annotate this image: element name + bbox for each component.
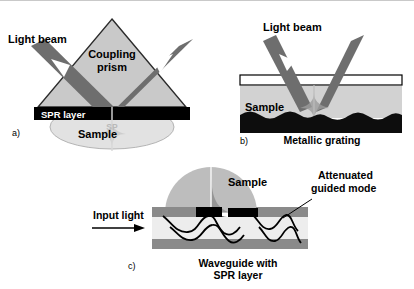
input-light-arrow-head (134, 224, 145, 232)
spr-layer-label-a: SPR layer (41, 109, 86, 120)
cover-glass-b (240, 75, 402, 85)
sample-label-b: Sample (245, 101, 284, 113)
sample-label-c: Sample (228, 176, 267, 188)
input-light-arrow (92, 224, 145, 232)
coupling-prism-label-line2: prism (97, 61, 127, 73)
coupling-prism-label-line1: Coupling (88, 48, 136, 60)
grating-coupling-panel: Light beam Sample Metallic grating b) (240, 21, 402, 146)
waveguide-coupling-panel: Input light Sample Attenuated guided mod… (92, 167, 376, 281)
input-light-label: Input light (93, 209, 144, 221)
panel-tag-b: b) (240, 136, 248, 146)
figure-container: Light beam Coupling prism SPR layer SP S… (0, 0, 414, 289)
panel-tag-a: a) (12, 128, 20, 138)
light-beam-label-b: Light beam (263, 21, 322, 33)
metallic-grating-label: Metallic grating (283, 134, 360, 146)
attenuated-mode-label-line1: Attenuated (318, 169, 373, 181)
waveguide-label-line1: Waveguide with (199, 257, 278, 269)
panel-tag-c: c) (128, 261, 136, 271)
diagram-canvas: Light beam Coupling prism SPR layer SP S… (0, 1, 414, 289)
waveguide-upper-clad-right (256, 207, 308, 217)
light-beam-label-a: Light beam (8, 33, 67, 45)
sample-label-a: Sample (78, 128, 117, 140)
waveguide-lower-clad (152, 239, 308, 249)
attenuated-mode-label-line2: guided mode (311, 182, 376, 194)
waveguide-label-line2: SPR layer (213, 269, 262, 281)
prism-coupling-panel: Light beam Coupling prism SPR layer SP S… (8, 19, 193, 151)
